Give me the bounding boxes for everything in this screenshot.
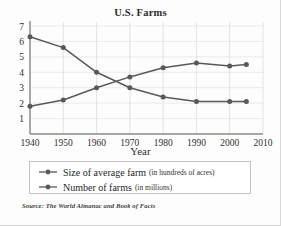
data-point-marker bbox=[61, 45, 66, 50]
y-tick-label: 5 bbox=[19, 52, 24, 62]
line-chart-plot: 123456719401950196019701980199020002010 bbox=[0, 0, 281, 160]
chart-legend: Size of average farm (in hundreds of acr… bbox=[29, 161, 251, 194]
chart-figure: U.S. Farms 12345671940195019601970198019… bbox=[0, 0, 281, 226]
data-point-marker bbox=[227, 64, 232, 69]
y-tick-label: 2 bbox=[19, 99, 24, 109]
data-point-marker bbox=[127, 74, 132, 79]
data-point-marker bbox=[127, 85, 132, 90]
data-point-marker bbox=[161, 65, 166, 70]
data-point-marker bbox=[94, 85, 99, 90]
data-point-marker bbox=[161, 94, 166, 99]
data-point-marker bbox=[28, 104, 33, 109]
data-point-marker bbox=[61, 98, 66, 103]
legend-item-size-units: (in hundreds of acres) bbox=[149, 168, 215, 177]
line-dot-marker-icon bbox=[38, 182, 58, 192]
data-point-marker bbox=[194, 99, 199, 104]
y-tick-label: 1 bbox=[19, 114, 24, 124]
legend-item-number: Number of farms (in millions) bbox=[38, 180, 250, 194]
source-note: Source: The World Almanac and Book of Fa… bbox=[22, 202, 155, 209]
data-point-marker bbox=[94, 70, 99, 75]
legend-item-number-label: Number of farms bbox=[63, 182, 132, 193]
y-tick-label: 7 bbox=[19, 22, 24, 32]
legend-item-size: Size of average farm (in hundreds of acr… bbox=[38, 165, 250, 179]
x-axis-title: Year bbox=[0, 145, 281, 157]
line-dot-marker-icon bbox=[38, 167, 58, 177]
y-tick-label: 6 bbox=[19, 37, 24, 47]
data-point-marker bbox=[244, 62, 249, 67]
legend-item-number-units: (in millions) bbox=[135, 183, 172, 192]
data-point-marker bbox=[227, 99, 232, 104]
data-point-marker bbox=[194, 61, 199, 66]
data-point-marker bbox=[28, 34, 33, 39]
legend-item-size-label: Size of average farm bbox=[63, 167, 146, 178]
data-point-marker bbox=[244, 99, 249, 104]
y-tick-label: 3 bbox=[19, 83, 24, 93]
y-tick-label: 4 bbox=[19, 68, 24, 78]
